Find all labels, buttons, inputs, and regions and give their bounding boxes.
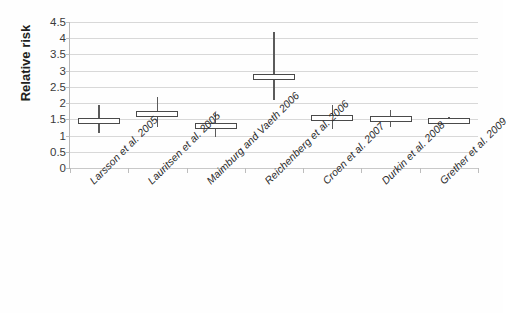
y-axis-tick-label: 1.5 bbox=[50, 113, 66, 125]
y-axis-tick-labels: 00.511.522.533.544.5 bbox=[38, 22, 66, 168]
y-axis-tick-label: 4.5 bbox=[50, 16, 66, 28]
point-estimate-box bbox=[136, 111, 178, 117]
y-axis-tick-label: 3.5 bbox=[50, 48, 66, 60]
point-estimate-box bbox=[78, 118, 120, 124]
x-axis-category-labels: Larsson et al. 2005Lauritsen et al. 2005… bbox=[0, 168, 503, 313]
y-axis-title: Relative risk bbox=[18, 8, 40, 118]
confidence-interval-whisker bbox=[273, 32, 274, 100]
y-axis-tick-label: 2.5 bbox=[50, 81, 66, 93]
y-axis-tick-label: 0.5 bbox=[50, 146, 66, 158]
point-estimate-box bbox=[253, 74, 295, 80]
